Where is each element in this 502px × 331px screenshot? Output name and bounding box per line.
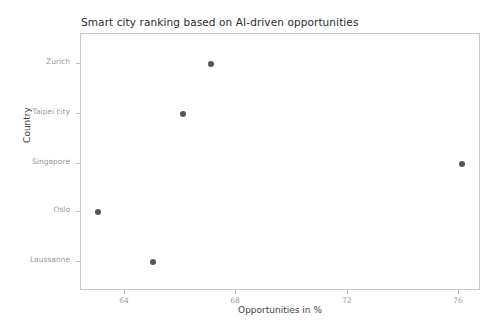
y-tick-label: Zurich xyxy=(46,57,70,66)
data-point-singapore xyxy=(459,161,465,167)
x-tick-label: 68 xyxy=(221,296,249,305)
y-tick-label: Laussanne xyxy=(30,255,70,264)
tick-mark-icon xyxy=(347,290,348,294)
y-tick-label: Singapore xyxy=(32,157,70,166)
data-point-oslo xyxy=(95,209,101,215)
x-tick-label: 76 xyxy=(444,296,472,305)
data-point-laussanne xyxy=(150,259,156,265)
x-tick-label: 72 xyxy=(333,296,361,305)
data-point-zurich xyxy=(208,61,214,67)
chart-figure: Smart city ranking based on AI-driven op… xyxy=(0,0,502,331)
chart-title: Smart city ranking based on AI-driven op… xyxy=(81,16,359,28)
data-point-taipei-city xyxy=(180,111,186,117)
tick-mark-icon xyxy=(458,290,459,294)
tick-mark-icon xyxy=(235,290,236,294)
plot-area xyxy=(80,33,480,290)
x-tick-label: 64 xyxy=(110,296,138,305)
y-tick-label: Oslo xyxy=(54,205,70,214)
y-tick-label: Taipei city xyxy=(33,107,70,116)
x-axis-label: Opportunities in % xyxy=(80,305,480,315)
y-axis-label: Country xyxy=(22,85,32,165)
tick-mark-icon xyxy=(124,290,125,294)
